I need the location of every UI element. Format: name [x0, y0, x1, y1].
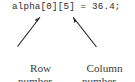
column-number-label-line2: number — [66, 75, 132, 82]
column-number-label: Columnnumber — [66, 49, 132, 82]
column-number-label-line1: Column — [87, 62, 123, 74]
column-number-arrow — [73, 17, 96, 47]
row-number-label-line2: number — [4, 75, 66, 82]
row-number-label-line1: Row — [30, 62, 51, 74]
array-subscript-diagram: alpha[0][5] = 36.4; Rownumber Columnnumb… — [0, 0, 135, 82]
row-number-arrow — [18, 17, 41, 46]
row-number-label: Rownumber — [4, 49, 66, 82]
